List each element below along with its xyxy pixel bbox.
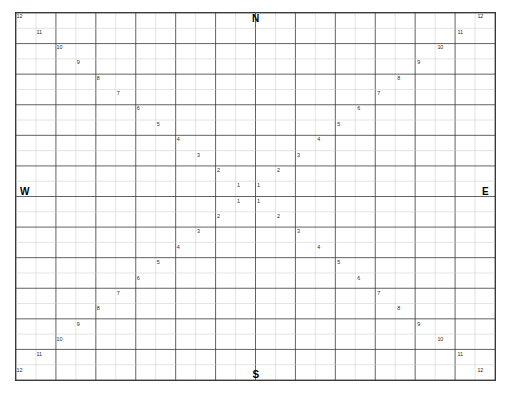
distance-number: 3	[197, 153, 200, 158]
distance-number: 2	[277, 214, 280, 219]
distance-number: 5	[337, 122, 340, 127]
distance-number: 2	[277, 168, 280, 173]
compass-label-west: W	[20, 187, 29, 197]
distance-number: 4	[317, 245, 320, 250]
distance-number: 9	[77, 60, 80, 65]
distance-number: 7	[117, 91, 120, 96]
distance-number: 8	[397, 76, 400, 81]
compass-distance-grid-chart: 1211109876543211211109876543211234567891…	[0, 0, 511, 402]
distance-number: 1	[257, 183, 260, 188]
distance-number: 2	[217, 214, 220, 219]
compass-label-east: E	[482, 187, 489, 197]
distance-number: 11	[37, 352, 42, 357]
distance-number: 7	[377, 91, 380, 96]
distance-number: 1	[257, 199, 260, 204]
distance-number: 6	[137, 106, 140, 111]
distance-number: 11	[37, 30, 42, 35]
distance-number: 10	[57, 337, 63, 342]
distance-number: 8	[97, 306, 100, 311]
grid-lines	[16, 13, 495, 380]
distance-number: 12	[477, 14, 483, 19]
distance-number: 10	[57, 45, 63, 50]
distance-number: 12	[17, 14, 23, 19]
distance-number: 1	[237, 183, 240, 188]
distance-number: 11	[457, 30, 462, 35]
distance-number: 5	[157, 122, 160, 127]
distance-number: 9	[77, 322, 80, 327]
distance-number: 9	[417, 60, 420, 65]
distance-number: 4	[177, 245, 180, 250]
chart-plot-area	[15, 12, 496, 381]
distance-number: 9	[417, 322, 420, 327]
distance-number: 11	[457, 352, 462, 357]
distance-number: 12	[17, 368, 23, 373]
distance-number: 6	[137, 276, 140, 281]
distance-number: 3	[297, 229, 300, 234]
distance-number: 7	[377, 291, 380, 296]
distance-number: 5	[157, 260, 160, 265]
distance-number: 6	[357, 276, 360, 281]
distance-number: 7	[117, 291, 120, 296]
distance-number: 4	[177, 137, 180, 142]
distance-number: 5	[337, 260, 340, 265]
distance-number: 4	[317, 137, 320, 142]
distance-number: 3	[197, 229, 200, 234]
compass-label-south: S	[253, 370, 260, 380]
distance-number: 1	[237, 199, 240, 204]
distance-number: 8	[97, 76, 100, 81]
distance-number: 10	[437, 45, 443, 50]
compass-label-north: N	[252, 14, 259, 24]
distance-number: 12	[477, 368, 483, 373]
distance-number: 8	[397, 306, 400, 311]
distance-number: 2	[217, 168, 220, 173]
distance-number: 10	[437, 337, 443, 342]
distance-number: 6	[357, 106, 360, 111]
distance-number: 3	[297, 153, 300, 158]
